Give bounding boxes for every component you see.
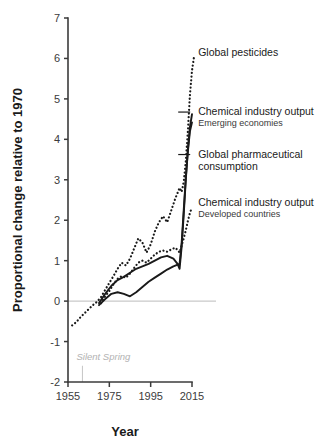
y-tick-label-6: 4 [54,133,60,145]
y-tick-label-1: -1 [50,336,60,348]
series-sublabel-3: Developed countries [198,209,281,219]
series-label-0: Global pesticides [198,46,278,58]
y-tick-label-0: -2 [50,376,60,388]
y-tick-label-2: 0 [54,295,60,307]
series-sublabel-1: Emerging economies [198,118,283,128]
y-tick-label-7: 5 [54,93,60,105]
y-tick-label-8: 6 [54,52,60,64]
y-tick-label-5: 3 [54,174,60,186]
y-tick-label-4: 2 [54,214,60,226]
series-label-cont-2: consumption [198,160,258,172]
proportional-change-line-chart: Silent Spring -2-10123456719551975199520… [0,0,336,444]
series-label-3: Chemical industry output [198,196,314,208]
series-label-2: Global pharmaceutical [198,148,302,160]
x-tick-label-0: 1955 [56,390,80,402]
chart-container: Silent Spring -2-10123456719551975199520… [0,0,336,444]
y-tick-label-9: 7 [54,12,60,24]
annotation-label-0: Silent Spring [76,351,131,362]
x-axis-title: Year [111,424,138,439]
y-tick-label-3: 1 [54,255,60,267]
x-tick-label-3: 2015 [180,390,204,402]
y-axis-title: Proportional change relative to 1970 [10,88,25,312]
series-label-1: Chemical industry output [198,105,314,117]
x-tick-label-2: 1995 [138,390,162,402]
x-tick-label-1: 1975 [97,390,121,402]
